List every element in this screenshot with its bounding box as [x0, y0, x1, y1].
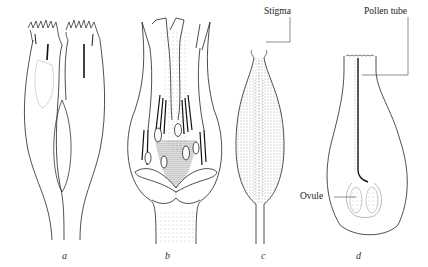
panel-a-florets [24, 20, 104, 240]
panel-label-d: d [356, 250, 361, 261]
panel-label-b: b [165, 250, 170, 261]
panel-b-flower-section [128, 18, 222, 244]
stigma-label: Stigma [264, 6, 291, 16]
stigma-leader-line [266, 17, 290, 42]
panel-c-pistil [236, 17, 290, 244]
panel-d-pistil-section [327, 17, 408, 235]
panel-label-a: a [62, 250, 67, 261]
pollen-tube-leader-line [362, 17, 408, 75]
figure-drawings [0, 0, 428, 267]
botanical-figure: Stigma Pollen tube Ovule a b c d [0, 0, 428, 267]
ovule-label: Ovule [300, 191, 323, 201]
pollen-tube-label: Pollen tube [364, 6, 407, 16]
panel-label-c: c [261, 250, 265, 261]
